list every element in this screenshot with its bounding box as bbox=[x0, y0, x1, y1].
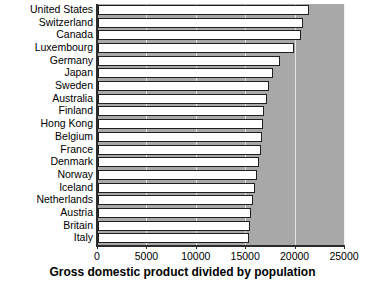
x-tick-mark bbox=[245, 245, 246, 249]
x-tick-mark bbox=[344, 245, 345, 249]
bar-category-label: Finland bbox=[0, 104, 93, 116]
bar bbox=[98, 195, 253, 205]
bar-category-label: Norway bbox=[0, 168, 93, 180]
bar-category-label: Germany bbox=[0, 54, 93, 66]
bar bbox=[98, 106, 264, 116]
bar bbox=[98, 132, 262, 142]
chart-screenshot: United StatesSwitzerlandCanadaLuxembourg… bbox=[0, 0, 365, 290]
bar-category-label: Britain bbox=[0, 219, 93, 231]
x-axis-line bbox=[97, 245, 345, 247]
bar-category-label: Canada bbox=[0, 28, 93, 40]
bar bbox=[98, 18, 303, 28]
x-tick-label: 25000 bbox=[329, 250, 358, 262]
x-axis-title: Gross domestic product divided by popula… bbox=[0, 265, 365, 279]
x-tick-label: 0 bbox=[94, 250, 100, 262]
bar bbox=[98, 5, 309, 15]
bar-category-label: Netherlands bbox=[0, 193, 93, 205]
x-tick-label: 20000 bbox=[280, 250, 309, 262]
x-tick-mark bbox=[295, 245, 296, 249]
bar-category-label: Italy bbox=[0, 231, 93, 243]
x-tick-label: 10000 bbox=[181, 250, 210, 262]
x-tick-mark bbox=[146, 245, 147, 249]
bar-row: Italy bbox=[0, 232, 365, 245]
bar-category-label: Switzerland bbox=[0, 16, 93, 28]
bar-category-label: Sweden bbox=[0, 79, 93, 91]
bar bbox=[98, 81, 269, 91]
bar-category-label: Austria bbox=[0, 206, 93, 218]
bar-category-label: France bbox=[0, 143, 93, 155]
bar-category-label: Iceland bbox=[0, 181, 93, 193]
x-tick-mark bbox=[196, 245, 197, 249]
bar-category-label: Japan bbox=[0, 66, 93, 78]
x-tick-label: 5000 bbox=[135, 250, 158, 262]
bar-category-label: Denmark bbox=[0, 155, 93, 167]
x-tick-mark bbox=[97, 245, 98, 249]
bar bbox=[98, 170, 257, 180]
bar bbox=[98, 30, 301, 40]
bar-category-label: Luxembourg bbox=[0, 41, 93, 53]
bar bbox=[98, 145, 261, 155]
bar-rows: United StatesSwitzerlandCanadaLuxembourg… bbox=[0, 4, 365, 245]
bar bbox=[98, 68, 273, 78]
bar bbox=[98, 233, 249, 243]
bar bbox=[98, 157, 259, 167]
bar bbox=[98, 183, 255, 193]
bar-category-label: United States bbox=[0, 3, 93, 15]
bar bbox=[98, 43, 294, 53]
bar bbox=[98, 119, 263, 129]
bar-category-label: Australia bbox=[0, 92, 93, 104]
bar bbox=[98, 56, 280, 66]
bar-category-label: Hong Kong bbox=[0, 117, 93, 129]
bar bbox=[98, 94, 267, 104]
bar bbox=[98, 208, 251, 218]
bar-category-label: Belgium bbox=[0, 130, 93, 142]
bar bbox=[98, 221, 250, 231]
x-tick-label: 15000 bbox=[231, 250, 260, 262]
